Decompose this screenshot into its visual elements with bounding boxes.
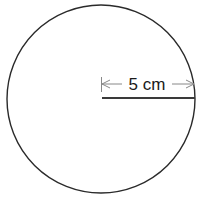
- circle-diagram: 5 cm: [0, 0, 202, 197]
- dimension-arrow-right: [172, 80, 194, 88]
- dimension-arrow-left: [102, 80, 122, 88]
- radius-label: 5 cm: [129, 75, 166, 94]
